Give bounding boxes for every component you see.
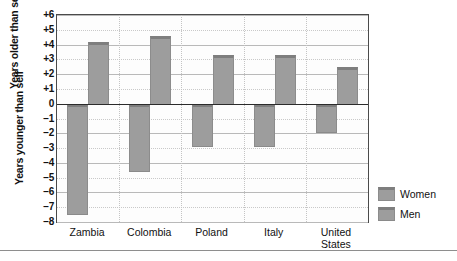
- y-tick-neg7: −7: [43, 201, 54, 212]
- y-tick-1: +1: [43, 82, 54, 93]
- zero-axis-line: [57, 104, 368, 105]
- y-tick-neg2: −2: [43, 127, 54, 138]
- chart-figure: Years older than self Years younger than…: [0, 0, 457, 261]
- legend-swatch-icon: [378, 207, 395, 221]
- gridline: [57, 133, 368, 134]
- gridline: [57, 178, 368, 179]
- bar-women-united-states: [316, 104, 337, 134]
- category-separator: [181, 15, 182, 222]
- y-tick-neg4: −4: [43, 156, 54, 167]
- y-tick-neg3: −3: [43, 142, 54, 153]
- gridline: [57, 192, 368, 193]
- gridline: [57, 148, 368, 149]
- bar-women-poland: [192, 104, 213, 147]
- category-label-zambia: Zambia: [56, 226, 118, 238]
- category-separator: [306, 15, 307, 222]
- bar-women-zambia: [67, 104, 88, 215]
- gridline: [57, 207, 368, 208]
- y-tick-0: 0: [49, 97, 54, 108]
- bottom-divider: [0, 250, 457, 251]
- category-label-poland: Poland: [180, 226, 242, 238]
- bar-men-poland: [213, 55, 234, 104]
- category-label-colombia: Colombia: [118, 226, 180, 238]
- legend-item-men: Men: [378, 206, 456, 221]
- bar-men-colombia: [150, 36, 171, 104]
- bar-women-italy: [254, 104, 275, 147]
- y-tick-neg1: −1: [43, 112, 54, 123]
- plot-area: [56, 14, 369, 223]
- category-separator: [244, 15, 245, 222]
- bar-men-italy: [275, 55, 296, 104]
- bar-men-zambia: [88, 42, 109, 104]
- gridline: [57, 222, 368, 223]
- y-tick-5: +5: [43, 23, 54, 34]
- y-tick-2: +2: [43, 68, 54, 79]
- bar-women-colombia: [129, 104, 150, 172]
- legend-label: Women: [400, 188, 436, 200]
- category-label-united-states: United States: [305, 226, 367, 250]
- y-tick-neg5: −5: [43, 171, 54, 182]
- category-separator: [119, 15, 120, 222]
- chart-legend: WomenMen: [378, 186, 456, 226]
- category-label-italy: Italy: [243, 226, 305, 238]
- legend-swatch-icon: [378, 187, 395, 201]
- y-tick-3: +3: [43, 53, 54, 64]
- gridline: [57, 30, 368, 31]
- y-tick-neg8: −8: [43, 216, 54, 227]
- legend-item-women: Women: [378, 186, 456, 201]
- gridline: [57, 15, 368, 16]
- bar-men-united-states: [337, 67, 358, 104]
- gridline: [57, 163, 368, 164]
- y-axis-tick-labels: +6+5+4+3+2+10−1−2−3−4−5−6−7−8: [27, 12, 54, 225]
- y-tick-neg6: −6: [43, 186, 54, 197]
- y-tick-4: +4: [43, 38, 54, 49]
- y-tick-6: +6: [43, 9, 54, 20]
- legend-label: Men: [400, 208, 420, 220]
